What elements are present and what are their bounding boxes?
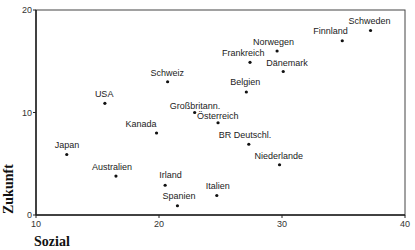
data-point: Dänemark (266, 58, 308, 74)
data-point: Schweiz (151, 68, 185, 84)
point-marker-icon (176, 204, 179, 207)
data-points: SchwedenFinnlandNorwegenFrankreichDänema… (55, 16, 391, 208)
data-point: Australien (92, 162, 132, 178)
data-point: Belgien (230, 77, 260, 94)
data-point: Irland (159, 170, 182, 187)
point-label: Norwegen (253, 37, 294, 47)
y-tick-label: 10 (22, 108, 32, 118)
point-label: Österreich (197, 111, 239, 121)
data-point: Japan (55, 140, 80, 157)
point-marker-icon (248, 61, 251, 64)
x-axis-ticks: 10203040 (31, 215, 410, 229)
point-label: Frankreich (222, 48, 265, 58)
x-tick-label: 30 (277, 219, 287, 229)
point-label: USA (95, 89, 114, 99)
point-marker-icon (216, 121, 219, 124)
point-label: Spanien (162, 191, 195, 201)
x-axis-title: Sozial (34, 234, 70, 249)
data-point: Schweden (349, 16, 391, 33)
point-marker-icon (103, 102, 106, 105)
point-label: Dänemark (266, 58, 308, 68)
point-label: BR Deutschl. (219, 130, 272, 140)
y-axis-ticks: 01020 (22, 5, 36, 220)
point-marker-icon (215, 194, 218, 197)
data-point: Niederlande (255, 151, 304, 167)
point-label: Schweiz (151, 68, 185, 78)
data-point: USA (95, 89, 114, 105)
data-point: BR Deutschl. (219, 130, 272, 146)
data-point: Frankreich (222, 48, 265, 64)
x-tick-label: 20 (154, 219, 164, 229)
point-label: Schweden (349, 16, 391, 26)
data-point: Finnland (313, 26, 348, 43)
scatter-chart: 10203040 01020 SchwedenFinnlandNorwegenF… (0, 0, 415, 250)
point-marker-icon (193, 111, 196, 114)
point-marker-icon (278, 163, 281, 166)
point-marker-icon (282, 70, 285, 73)
point-label: Australien (92, 162, 132, 172)
point-marker-icon (275, 49, 278, 52)
y-tick-label: 0 (27, 210, 32, 220)
point-label: Kanada (126, 119, 157, 129)
x-tick-label: 10 (31, 219, 41, 229)
data-point: Österreich (197, 111, 239, 125)
point-marker-icon (245, 90, 248, 93)
point-marker-icon (114, 174, 117, 177)
data-point: Italien (206, 181, 230, 198)
x-tick-label: 40 (400, 219, 410, 229)
point-label: Großbritann. (170, 101, 221, 111)
point-marker-icon (369, 29, 372, 32)
point-marker-icon (164, 184, 167, 187)
point-label: Finnland (313, 26, 348, 36)
point-marker-icon (247, 143, 250, 146)
point-marker-icon (65, 153, 68, 156)
y-axis-title: Zukunft (1, 164, 16, 214)
point-marker-icon (155, 131, 158, 134)
y-tick-label: 20 (22, 5, 32, 15)
point-marker-icon (166, 80, 169, 83)
point-label: Irland (159, 170, 182, 180)
point-marker-icon (341, 39, 344, 42)
point-label: Japan (55, 140, 80, 150)
data-point: Spanien (162, 191, 195, 208)
point-label: Italien (206, 181, 230, 191)
data-point: Kanada (126, 119, 159, 135)
point-label: Belgien (230, 77, 260, 87)
point-label: Niederlande (255, 151, 304, 161)
